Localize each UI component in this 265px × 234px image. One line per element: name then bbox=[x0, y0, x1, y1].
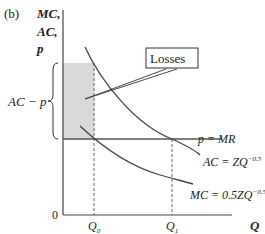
ac-label: AC = ZQ−0.5 bbox=[202, 155, 262, 169]
origin-label: 0 bbox=[52, 208, 58, 222]
x-axis-label: Q bbox=[250, 218, 260, 233]
panel-label: (b) bbox=[4, 6, 19, 21]
losses-area bbox=[63, 63, 94, 139]
y-axis-label-mc: MC, bbox=[36, 6, 60, 21]
acp-brace bbox=[48, 63, 58, 139]
q1-tick-label: Q1 bbox=[166, 219, 178, 234]
cost-curve-chart: (b) MC, AC, p AC − p Losses p = MR AC = … bbox=[0, 0, 265, 234]
losses-pointer bbox=[85, 69, 166, 99]
mc-curve bbox=[80, 126, 193, 184]
y-axis-label-ac: AC, bbox=[36, 24, 58, 39]
mc-label: MC = 0.5ZQ−0.5 bbox=[189, 188, 265, 202]
acp-label: AC − p bbox=[7, 94, 47, 109]
pmr-label: p = MR bbox=[197, 132, 236, 146]
q0-tick-label: Q0 bbox=[88, 219, 101, 234]
losses-label: Losses bbox=[150, 51, 185, 66]
y-axis-label-p: p bbox=[36, 41, 44, 56]
losses-pointer-2 bbox=[85, 69, 177, 99]
